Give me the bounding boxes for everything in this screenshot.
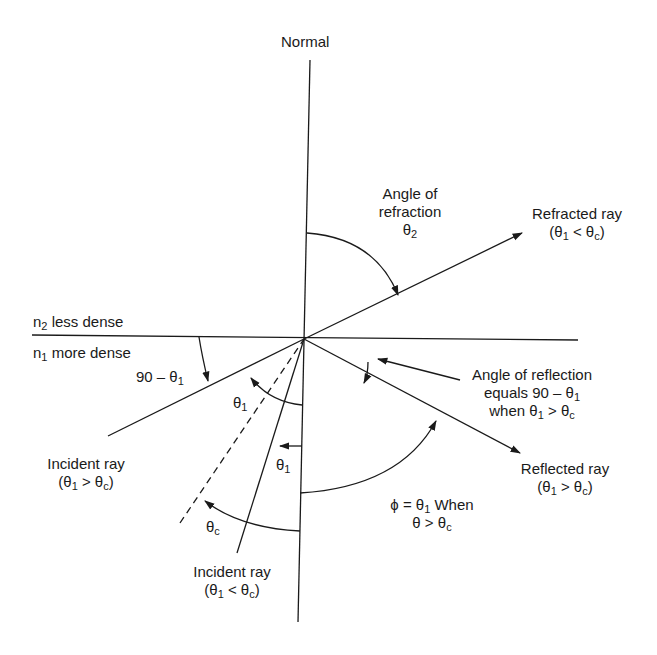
ninety-minus-arc (199, 337, 208, 381)
angle-of-refraction-label: Angle of refraction θ2 (350, 185, 470, 239)
phi-arc (300, 421, 436, 493)
refraction-diagram: Normal n2 less dense n1 more dense Angle… (0, 0, 657, 655)
theta1-upper-label: θ1 (233, 394, 247, 412)
incident-ray-refr-label: Incident ray (θ1 < θc) (172, 563, 292, 599)
refracted-ray-label: Refracted ray (θ1 < θc) (512, 205, 642, 241)
ninety-minus-theta1-label: 90 – θ1 (136, 368, 184, 386)
angle-of-reflection-label: Angle of reflection equals 90 – θ1 when … (452, 366, 612, 420)
reflection-angle-arc (364, 362, 368, 383)
refracted-ray (304, 233, 522, 339)
reflected-ray-label: Reflected ray (θ1 > θc) (505, 460, 625, 496)
theta1-upper-arc (251, 378, 302, 405)
upper-medium-label: n2 less dense (33, 313, 123, 331)
phi-label: ϕ = θ1 When θ > θc (372, 496, 492, 532)
reflection-label-pointer (378, 359, 460, 380)
theta-c-label: θc (206, 518, 220, 536)
refraction-arc (307, 233, 398, 295)
incident-ray-tir-label: Incident ray (θ1 > θc) (26, 455, 146, 491)
critical-ray (180, 339, 304, 523)
normal-label: Normal (281, 33, 329, 51)
incident-ray-tir (108, 339, 304, 436)
lower-medium-label: n1 more dense (33, 344, 131, 362)
theta1-lower-label: θ1 (276, 456, 290, 474)
